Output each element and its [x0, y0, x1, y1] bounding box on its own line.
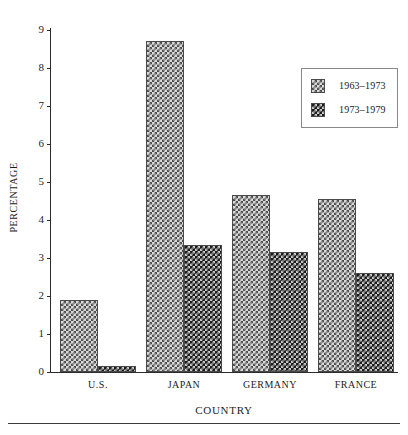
x-category-label-germany: GERMANY	[232, 379, 308, 390]
y-tick-label-1: 1	[28, 328, 44, 339]
bar-france-1973-1979[interactable]	[356, 273, 394, 372]
bar-group-germany	[232, 28, 308, 372]
x-axis-line	[50, 372, 398, 373]
bar-japan-1973-1979[interactable]	[184, 245, 222, 372]
bar-germany-1973-1979[interactable]	[270, 252, 308, 372]
y-tick-mark-0	[47, 372, 51, 373]
y-tick-mark-8	[47, 68, 51, 69]
legend-label-1963-1973: 1963–1973	[339, 80, 386, 91]
y-tick-label-8: 8	[28, 62, 44, 73]
y-tick-mark-5	[47, 182, 51, 183]
y-tick-label-7: 7	[28, 100, 44, 111]
legend: 1963–1973 1973–1979	[301, 68, 398, 128]
y-tick-label-9: 9	[28, 24, 44, 35]
bar-japan-1963-1973[interactable]	[146, 41, 184, 372]
legend-label-1973-1979: 1973–1979	[339, 104, 386, 115]
bar-us-1963-1973[interactable]	[60, 300, 98, 372]
legend-swatch-dark-checkerboard-icon	[311, 103, 325, 117]
x-category-label-france: FRANCE	[318, 379, 394, 390]
y-tick-mark-6	[47, 144, 51, 145]
y-tick-label-6: 6	[28, 138, 44, 149]
y-tick-label-4: 4	[28, 214, 44, 225]
bottom-divider	[8, 423, 400, 424]
y-tick-mark-4	[47, 220, 51, 221]
bar-us-1973-1979[interactable]	[98, 366, 136, 372]
bar-germany-1963-1973[interactable]	[232, 195, 270, 372]
x-category-label-japan: JAPAN	[146, 379, 222, 390]
x-category-label-us: U.S.	[60, 379, 136, 390]
y-tick-mark-7	[47, 106, 51, 107]
y-tick-mark-3	[47, 258, 51, 259]
bar-group-us	[60, 28, 136, 372]
bar-france-1963-1973[interactable]	[318, 199, 356, 372]
y-tick-mark-1	[47, 334, 51, 335]
x-axis-title: COUNTRY	[50, 404, 398, 416]
y-tick-mark-2	[47, 296, 51, 297]
y-tick-mark-9	[47, 30, 51, 31]
y-axis-title: PERCENTAGE	[8, 148, 19, 248]
y-axis-line	[50, 28, 51, 373]
bar-chart-figure: 0 1 2 3 4 5 6 7 8 9 PERCENTAGE COUNTRY U…	[0, 0, 408, 435]
y-tick-label-0: 0	[28, 366, 44, 377]
legend-swatch-light-checkerboard-icon	[311, 79, 325, 93]
y-tick-label-5: 5	[28, 176, 44, 187]
bar-group-japan	[146, 28, 222, 372]
y-tick-label-3: 3	[28, 252, 44, 263]
y-tick-label-2: 2	[28, 290, 44, 301]
